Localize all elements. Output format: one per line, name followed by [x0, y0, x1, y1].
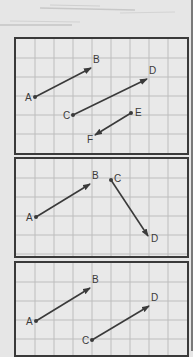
- point-A: [33, 95, 37, 99]
- point-label-C: C: [82, 335, 89, 346]
- vector-CD: [92, 306, 149, 340]
- point-label-A: A: [26, 316, 33, 327]
- vector-grid-1: ABCDEF: [16, 39, 187, 153]
- vector-AB: [36, 288, 90, 321]
- diagram-panel-2: ABCD: [14, 157, 189, 258]
- point-A: [34, 215, 38, 219]
- point-C: [109, 178, 113, 182]
- page-edge: [191, 0, 193, 351]
- vector-grid-2: ABCD: [16, 159, 187, 256]
- scanned-header-smudge: [0, 0, 193, 34]
- point-label-B: B: [93, 54, 100, 65]
- point-C: [90, 338, 94, 342]
- point-label-B: B: [92, 274, 99, 285]
- point-E: [129, 111, 133, 115]
- point-label-D: D: [151, 292, 158, 303]
- point-label-A: A: [26, 212, 33, 223]
- point-label-F: F: [87, 134, 93, 145]
- diagram-panel-1: ABCDEF: [14, 37, 189, 155]
- vector-grid-3: ABCD: [16, 263, 187, 355]
- point-A: [34, 319, 38, 323]
- point-label-A: A: [25, 92, 32, 103]
- diagram-panel-3: ABCD: [14, 261, 189, 357]
- point-label-C: C: [63, 110, 70, 121]
- point-label-E: E: [135, 107, 142, 118]
- vector-EF: [95, 113, 131, 135]
- point-label-D: D: [149, 65, 156, 76]
- point-label-B: B: [92, 170, 99, 181]
- vector-AB: [36, 184, 90, 217]
- vector-AB: [35, 68, 91, 97]
- point-label-C: C: [114, 173, 121, 184]
- point-C: [71, 113, 75, 117]
- point-label-D: D: [151, 233, 158, 244]
